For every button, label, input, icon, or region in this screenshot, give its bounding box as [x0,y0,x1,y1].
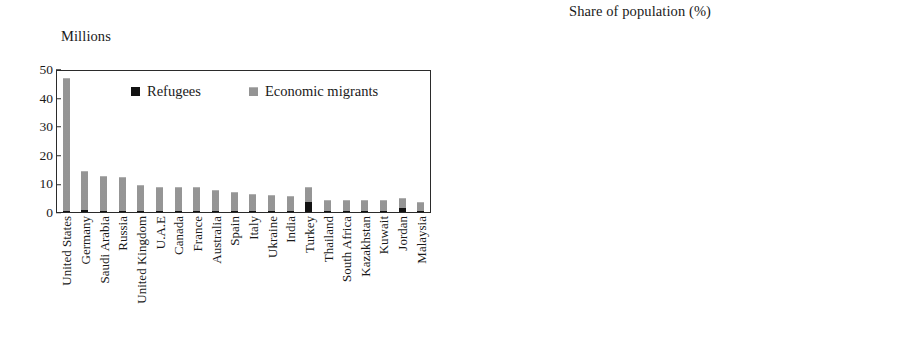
bar-segment-economic-migrants[interactable] [324,200,331,212]
x-axis-label-slot: U.A.E [150,216,169,226]
stacked-bar[interactable] [63,78,70,212]
stacked-bar[interactable] [100,176,107,212]
bar-segment-economic-migrants[interactable] [100,176,107,211]
x-axis-label-slot: Malaysia [411,216,430,226]
bar-segment-refugees[interactable] [249,211,256,212]
stacked-bar[interactable] [175,187,182,212]
bar-group[interactable] [113,71,132,212]
stacked-bar[interactable] [193,187,200,212]
legend-left: Refugees Economic migrants [131,84,378,99]
bar-segment-refugees[interactable] [399,208,406,212]
stacked-bar[interactable] [268,195,275,212]
stacked-bar[interactable] [249,194,256,212]
x-axis-tick-label: Ukraine [265,216,278,258]
legend-item-economic-migrants: Economic migrants [249,84,378,99]
y-axis-tick: 30 [16,120,61,134]
x-axis-tick-label: United Kingdom [134,216,147,304]
bar-segment-economic-migrants[interactable] [119,177,126,211]
bar-segment-economic-migrants[interactable] [193,187,200,211]
bar-segment-refugees[interactable] [81,210,88,212]
x-axis-tick-label: U.A.E [153,216,166,249]
x-axis-tick-label: Canada [172,216,185,255]
bar-segment-economic-migrants[interactable] [399,198,406,208]
x-axis-label-slot: United Kingdom [132,216,151,226]
x-axis-tick-label: Russia [116,216,129,251]
bar-segment-economic-migrants[interactable] [361,200,368,211]
bar-segment-refugees[interactable] [231,211,238,212]
stacked-bar[interactable] [287,196,294,212]
stacked-bar[interactable] [231,192,238,212]
bar-segment-economic-migrants[interactable] [63,78,70,211]
bar-segment-refugees[interactable] [417,211,424,212]
bar-segment-economic-migrants[interactable] [305,187,312,203]
bar-segment-economic-migrants[interactable] [287,196,294,211]
y-axis-tick: 50 [16,63,61,77]
bar-segment-refugees[interactable] [268,211,275,212]
x-axis-label-slot: South Africa [337,216,356,226]
stacked-bar[interactable] [156,187,163,212]
chart-title-right: Share of population (%) [569,3,711,20]
x-axis-label-slot: Russia [113,216,132,226]
x-axis-label-slot: Saudi Arabia [94,216,113,226]
y-axis-tick: 10 [16,178,61,192]
stacked-bar[interactable] [399,198,406,212]
x-axis-label-slot: Thailand [318,216,337,226]
bar-segment-refugees[interactable] [361,211,368,212]
y-axis-tick-label: 40 [40,92,57,106]
black-square-icon [131,87,140,96]
bar-segment-economic-migrants[interactable] [175,187,182,212]
bar-segment-economic-migrants[interactable] [231,192,238,211]
stacked-bar[interactable] [119,177,126,212]
stacked-bar[interactable] [324,200,331,212]
x-axis-tick-label: Australia [209,216,222,264]
x-axis-tick-label: South Africa [340,216,353,282]
stacked-bar[interactable] [361,200,368,212]
stacked-bar[interactable] [305,187,312,212]
bar-segment-refugees[interactable] [119,211,126,212]
bar-segment-economic-migrants[interactable] [212,190,219,212]
bar-segment-refugees[interactable] [324,211,331,212]
x-axis-tick-label: Thailand [321,216,334,262]
bar-segment-economic-migrants[interactable] [268,195,275,211]
bar-segment-refugees[interactable] [175,211,182,212]
bar-segment-refugees[interactable] [193,211,200,212]
bar-segment-economic-migrants[interactable] [156,187,163,211]
stacked-bar[interactable] [417,202,424,212]
bar-segment-economic-migrants[interactable] [81,171,88,210]
bar-segment-refugees[interactable] [380,211,387,212]
stacked-bar[interactable] [380,200,387,212]
bar-group[interactable] [393,71,412,212]
bar-segment-economic-migrants[interactable] [249,194,256,211]
bar-group[interactable] [94,71,113,212]
bar-segment-refugees[interactable] [343,211,350,212]
legend-item-refugees: Refugees [131,84,201,99]
x-axis-tick-label: Malaysia [414,216,427,264]
bar-segment-refugees[interactable] [156,211,163,212]
x-axis-label-slot: Jordan [393,216,412,226]
x-axis-tick-label: Italy [246,216,259,240]
x-axis-label-slot: India [281,216,300,226]
bar-group[interactable] [57,71,76,212]
gray-square-icon [249,87,258,96]
bar-segment-refugees[interactable] [100,211,107,212]
bar-segment-refugees[interactable] [287,211,294,212]
stacked-bar[interactable] [81,171,88,212]
x-axis-tick-label: Turkey [302,216,315,253]
bar-segment-economic-migrants[interactable] [417,202,424,212]
bar-segment-refugees[interactable] [305,202,312,212]
x-axis-tick-label: Jordan [396,216,409,251]
bar-segment-economic-migrants[interactable] [343,200,350,212]
bar-segment-refugees[interactable] [212,211,219,212]
bar-segment-economic-migrants[interactable] [137,185,144,212]
stacked-bar[interactable] [137,185,144,212]
x-axis-label-slot: Australia [206,216,225,226]
y-axis-left: 01020304050 [16,70,61,213]
bar-group[interactable] [76,71,95,212]
bar-segment-refugees[interactable] [63,211,70,212]
bar-segment-refugees[interactable] [137,211,144,212]
bar-segment-economic-migrants[interactable] [380,200,387,211]
stacked-bar[interactable] [343,200,350,212]
bar-group[interactable] [411,71,430,212]
stacked-bar[interactable] [212,190,219,213]
y-axis-tick-label: 20 [40,149,57,163]
